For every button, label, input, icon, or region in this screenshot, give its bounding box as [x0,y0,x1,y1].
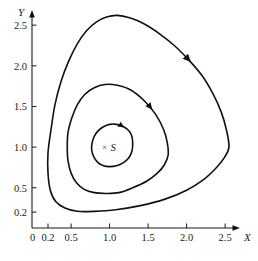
x-tick-label: 2.5 [219,232,232,243]
y-axis-arrow-icon [29,10,35,18]
fixed-point-cross-icon: × [102,143,107,152]
x-axis: 00.20.51.01.52.02.5 X [30,224,252,244]
orbit-middle [67,84,168,193]
x-tick-label: 2.0 [180,232,193,243]
y-tick-label: 1.0 [14,142,27,153]
fixed-point-annotation: × S [102,142,116,153]
y-axis: 0.20.51.01.52.02.5 Y [14,6,37,228]
y-axis-label: Y [18,6,26,18]
y-tick-label: 1.5 [14,101,27,112]
y-tick-label: 2.5 [14,20,27,31]
y-axis-tick-labels: 0.20.51.01.52.02.5 [14,20,27,218]
x-tick-label: 0.5 [65,232,78,243]
y-tick-label: 0.2 [14,207,27,218]
x-axis-label: X [243,231,252,243]
phase-portrait-figure: 0.20.51.01.52.02.5 Y 00.20.51.01.52.02.5… [0,0,258,261]
y-tick-label: 2.0 [14,61,27,72]
y-tick-label: 0.5 [14,183,27,194]
x-tick-label: 0 [30,232,35,243]
x-axis-tick-labels: 00.20.51.01.52.02.5 [30,232,232,243]
orbit-curves [48,15,229,211]
x-tick-label: 1.5 [142,232,155,243]
x-tick-label: 0.2 [41,232,54,243]
orbit-outer [48,15,229,211]
fixed-point-label: S [111,142,117,153]
y-axis-ticks [32,25,37,212]
x-axis-arrow-icon [233,225,241,231]
x-axis-ticks [48,224,225,229]
x-tick-label: 1.0 [103,232,116,243]
plot-canvas: 0.20.51.01.52.02.5 Y 00.20.51.01.52.02.5… [0,0,258,261]
orbit-direction-arrows [118,54,191,128]
